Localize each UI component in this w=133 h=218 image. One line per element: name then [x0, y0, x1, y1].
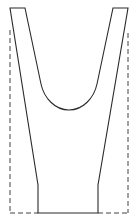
fork-diagram — [0, 0, 133, 218]
diagram-canvas — [0, 0, 133, 218]
fork-profile-solid — [10, 8, 128, 213]
